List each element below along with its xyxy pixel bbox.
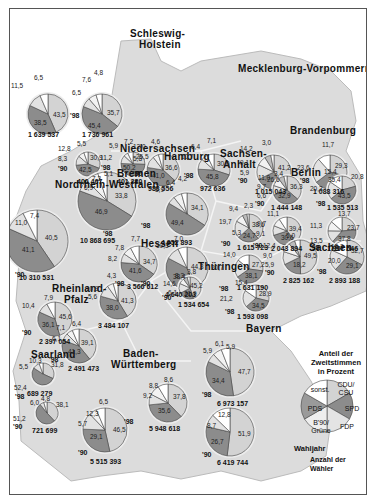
pie-value-label: 7,2 (124, 138, 133, 145)
pie-value-label: 2,3 (244, 202, 253, 209)
pie-value-label: 49,5 (304, 252, 317, 259)
pie-value-label: 13,7 (338, 210, 351, 217)
pie-value-label: 4,2 (178, 175, 187, 182)
pie-value-label: 31,8 (51, 361, 64, 368)
pie-value-label: 30,0 (217, 160, 230, 167)
pie-year-label: '98 (70, 112, 79, 120)
pie-voter-count: 2 825 162 (283, 277, 314, 285)
pie-value-label: 29,1 (346, 262, 359, 269)
pie-value-label: 41,1 (22, 246, 35, 253)
pie-voter-count: 3 566 612 (127, 283, 158, 291)
pie-value-label: 36,6 (165, 164, 178, 171)
pie-value-label: 4,6 (151, 138, 160, 145)
pie-value-label: 11,1 (267, 210, 279, 217)
pie-year-label: '90 (22, 329, 31, 337)
pie-value-label: 38,1 (245, 272, 258, 279)
legend-gruene: B'90/ Grüne (310, 419, 332, 435)
pie-year-label: '90 (162, 294, 171, 302)
pie-value-label: 20,8 (351, 173, 364, 180)
pie-value-label: 38,0 (106, 304, 119, 311)
pie-year-label: '90 (255, 200, 264, 208)
pie-value-label: 7,0 (174, 235, 183, 242)
legend-year-label: Wahljahr (294, 444, 325, 453)
pie-year-label: '90 (265, 269, 274, 277)
pie-value-label: 36,1 (42, 321, 55, 328)
pie-voter-count: 1 593 098 (237, 313, 268, 321)
pie-value-label: 4,8 (94, 69, 103, 76)
pie-value-label: 7,4 (30, 212, 39, 219)
pie-year-label: '98 (202, 391, 211, 399)
pie-value-label: 15,4 (235, 279, 248, 286)
pie-value-label: 6,0 (30, 399, 39, 406)
pie-value-label: 7,7 (131, 235, 140, 242)
pie-value-label: 8,3 (58, 155, 67, 162)
pie-value-label: 3,8 (187, 268, 196, 275)
pie-value-label: 9,1 (256, 230, 265, 237)
pie-value-label: 5,6 (88, 293, 97, 300)
pie-value-label: 9,4 (229, 205, 238, 212)
pie-value-label: 5,7 (78, 420, 87, 427)
pie-value-label: 10,3 (29, 357, 42, 364)
pie-value-label: 47,7 (238, 368, 251, 375)
pie-value-label: 6,5 (99, 398, 108, 405)
pie-value-label: 11,7 (322, 141, 334, 148)
pie-value-label: 41,0 (152, 172, 165, 179)
legend-pds: PDS (304, 405, 326, 413)
pie-value-label: 6,4 (166, 179, 175, 186)
pie-voter-count: 10 310 531 (19, 274, 54, 282)
pie-value-label: 34,5 (252, 302, 265, 309)
pie-voter-count: 5 515 393 (90, 458, 121, 466)
pie-value-label: 8,3 (175, 272, 184, 279)
pie-value-label: 7,3 (92, 175, 101, 182)
pie-value-label: 41,3 (68, 348, 81, 355)
pie-year-label: '90 (13, 423, 22, 431)
pie-value-label: 32,7 (351, 247, 364, 254)
pie-value-label: 28,9 (259, 290, 272, 297)
pie-year-label: '98 (317, 268, 326, 276)
pie-voter-count: 5 948 618 (149, 425, 180, 433)
pie-value-label: 37,8 (173, 393, 186, 400)
pie-value-label: 20,0 (328, 257, 341, 264)
pie-voter-count: 2 491 473 (68, 365, 99, 373)
pie-value-label: 11,5 (11, 82, 23, 89)
legend-spd: SPD (341, 405, 363, 413)
pie-value-label: 45,8 (206, 173, 219, 180)
pie-value-label: 45,2 (190, 282, 203, 289)
pie-value-label: 33,8 (115, 192, 128, 199)
pie-value-label: 12,0 (133, 143, 146, 150)
pie-value-label: 35,6 (158, 407, 171, 414)
pie-year-label: '98 (115, 280, 124, 288)
pie-year-label: '90 (238, 177, 247, 185)
pie-value-label: 45,6 (59, 313, 72, 320)
pie-value-label: 35,7 (107, 109, 120, 116)
pie-value-label: 9,7 (257, 183, 266, 190)
election-map-figure: Schleswig- Holstein Mecklenburg-Vorpomme… (0, 0, 375, 501)
pie-value-label: 25,5 (136, 153, 149, 160)
pie-value-label: 40,5 (45, 234, 58, 241)
pie-voter-count: 972 636 (200, 185, 225, 193)
pie-value-label: 52,4 (14, 384, 27, 391)
pie-value-label: 4,3 (107, 272, 116, 279)
pie-year-label: '90 (202, 451, 211, 459)
pie-value-label: 18,2 (293, 261, 306, 268)
pie-year-label: '90 (133, 170, 142, 178)
pie-value-label: 8,7 (207, 422, 216, 429)
label-brandenburg: Brandenburg (290, 126, 356, 136)
pie-voter-count: 2 893 188 (329, 277, 360, 285)
legend-title-2: Zweitstimmen (300, 358, 367, 367)
pie-value-label: 41,3 (121, 297, 134, 304)
pie-value-label: 3,0 (262, 139, 271, 146)
pie-voter-count: 1 639 537 (28, 131, 59, 139)
pie-value-label: 7,1 (207, 137, 216, 144)
legend-sonst: sonst. (308, 386, 332, 394)
pie-value-label: 21,2 (220, 295, 233, 302)
pie-value-label: 3,4 (274, 170, 283, 177)
pie-value-label: 19,7 (219, 218, 232, 225)
pie-value-label: 5,9 (240, 169, 249, 176)
pie-year-label: '90 (78, 449, 87, 457)
pie-value-label: 45,4 (88, 122, 101, 129)
pie-value-label: 9,0 (263, 252, 272, 259)
pie-value-label: 6,4 (72, 320, 81, 327)
pie-value-label: 6,5 (72, 89, 81, 96)
pie-value-label: 34,4 (212, 377, 225, 384)
